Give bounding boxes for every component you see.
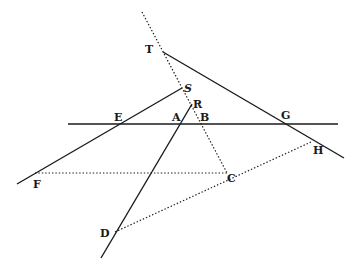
label-E: E — [114, 111, 122, 124]
label-A: A — [171, 111, 181, 124]
label-R: R — [193, 98, 203, 111]
label-D: D — [100, 227, 110, 240]
label-C: C — [227, 172, 236, 185]
line-TG — [163, 52, 344, 158]
line-SF — [17, 88, 182, 184]
label-T: T — [145, 43, 154, 56]
label-H: H — [313, 144, 323, 157]
line-DCH — [115, 142, 311, 232]
label-F: F — [33, 178, 41, 191]
label-S: S — [184, 82, 192, 95]
label-G: G — [281, 109, 290, 122]
label-B: B — [200, 111, 209, 124]
geometric-diagram: T S R E A B G H F C D — [0, 0, 358, 273]
